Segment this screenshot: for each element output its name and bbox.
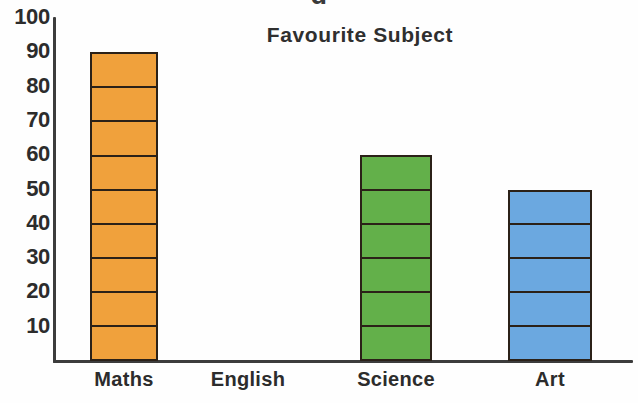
- bar-segment: [510, 192, 590, 226]
- y-tick-label: 70: [2, 109, 50, 131]
- bar-science: [360, 155, 432, 361]
- bar-segment: [92, 327, 156, 359]
- bar-segment: [92, 54, 156, 88]
- bar-segment: [362, 327, 430, 359]
- y-tick-label: 80: [2, 75, 50, 97]
- bar-segment: [92, 88, 156, 122]
- x-label-english: English: [178, 368, 318, 391]
- bar-segment: [92, 293, 156, 327]
- y-tick-label: 90: [2, 40, 50, 62]
- clipped-header-text: g: [0, 0, 638, 4]
- bar-segment: [510, 293, 590, 327]
- x-label-science: Science: [326, 368, 466, 391]
- bar-segment: [362, 293, 430, 327]
- x-label-maths: Maths: [54, 368, 194, 391]
- bar-segment: [362, 225, 430, 259]
- bar-segment: [92, 225, 156, 259]
- bar-chart: g Favourite Subject 10090807060504030201…: [0, 0, 638, 403]
- bar-segment: [362, 259, 430, 293]
- y-tick-label: 40: [2, 212, 50, 234]
- bar-segment: [92, 122, 156, 156]
- bar-segment: [510, 225, 590, 259]
- bar-segment: [362, 191, 430, 225]
- y-tick-label: 60: [2, 143, 50, 165]
- plot-area: [56, 17, 633, 361]
- y-tick-label: 50: [2, 178, 50, 200]
- bar-segment: [92, 157, 156, 191]
- y-tick-label: 100: [2, 6, 50, 28]
- y-tick-label: 30: [2, 246, 50, 268]
- y-tick-label: 20: [2, 280, 50, 302]
- y-tick-label: 10: [2, 315, 50, 337]
- bar-maths: [90, 52, 158, 361]
- bar-segment: [362, 157, 430, 191]
- bar-segment: [510, 327, 590, 359]
- x-label-art: Art: [480, 368, 620, 391]
- bar-segment: [92, 191, 156, 225]
- bar-art: [508, 190, 592, 362]
- bar-segment: [92, 259, 156, 293]
- bar-segment: [510, 259, 590, 293]
- y-axis-tick-labels: 100908070605040302010: [0, 0, 50, 403]
